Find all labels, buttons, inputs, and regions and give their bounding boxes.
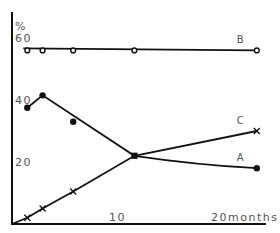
data-point-marker [40, 48, 45, 53]
data-point-marker [70, 188, 76, 194]
data-point-marker [39, 92, 45, 98]
data-point-marker [254, 48, 259, 53]
series-label-c: C [237, 115, 244, 126]
data-point-marker [24, 105, 30, 111]
y-tick-label: 20 [15, 156, 32, 169]
data-point-marker [25, 48, 30, 53]
data-point-marker [70, 119, 76, 125]
x-tick-label: 10 [109, 211, 126, 224]
series-label-b: B [237, 34, 244, 45]
data-point-marker [71, 48, 76, 53]
data-point-marker [40, 206, 46, 212]
tick-labels: 2040601020months [15, 32, 278, 224]
series-labels: ABC [237, 34, 244, 163]
line-chart: % 2040601020months ABC [0, 0, 280, 233]
series-line-b [23, 48, 256, 50]
x-tick-label: 20months [211, 211, 278, 224]
data-point-marker [132, 48, 137, 53]
data-point-marker [254, 165, 260, 171]
series-group [12, 48, 260, 224]
y-tick-label: 60 [15, 32, 32, 45]
series-label-a: A [237, 152, 244, 163]
series-line-a [27, 95, 256, 168]
